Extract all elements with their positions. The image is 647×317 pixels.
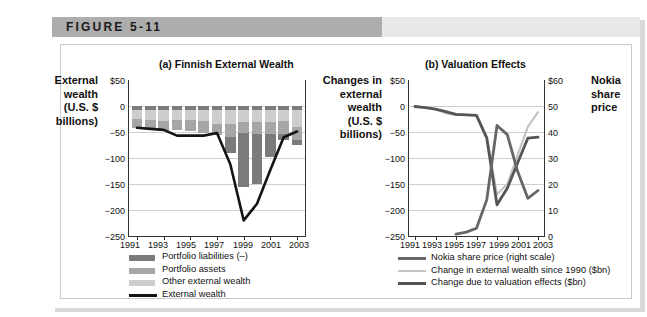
- legend-label: Change in external wealth since 1990 ($b…: [431, 265, 610, 275]
- panel-b-y2tick: 40: [548, 128, 572, 138]
- panel-b-ytick: 0: [381, 102, 405, 112]
- figure-page: FIGURE 5-11 (a) Finnish External Wealth …: [0, 0, 647, 317]
- panel-a-xtick: 2001: [257, 240, 285, 250]
- y-axis-label-line: Changes in: [308, 74, 382, 88]
- legend-line-external-wealth: [129, 294, 157, 297]
- title-bar-right: [382, 17, 640, 37]
- legend-label: Other external wealth: [162, 276, 250, 286]
- y-axis-label-line: (U.S. $: [308, 115, 382, 129]
- panel-b-series-lines: [409, 80, 544, 236]
- panel-a-title: (a) Finnish External Wealth: [159, 58, 294, 70]
- panel-a-y-axis-label: External wealth (U.S. $ billions): [32, 74, 98, 128]
- panel-a-xtick: 1995: [172, 240, 200, 250]
- legend-swatch-portfolio-assets: [129, 268, 155, 274]
- panel-b-xtick: 2003: [529, 240, 557, 250]
- legend-line-valuation-effects: [398, 282, 426, 285]
- series-line: [415, 107, 538, 205]
- panel-a-y-axis: [128, 80, 129, 237]
- panel-a-ytick: $50: [101, 76, 125, 86]
- y-axis-label-line: (U.S. $: [32, 101, 98, 115]
- legend-line-nokia-share-price: [398, 257, 426, 260]
- panel-b-ytick: −200: [370, 206, 405, 216]
- panel-b-y2tick: 10: [548, 206, 572, 216]
- y2-axis-label-line: price: [591, 101, 643, 115]
- panel-b-y2-axis: [544, 80, 545, 237]
- legend-item: Nokia share price (right scale): [398, 253, 638, 264]
- panel-b-legend: Nokia share price (right scale) Change i…: [398, 253, 638, 291]
- panel-a-ytick: −200: [90, 206, 125, 216]
- panel-b-y2tick: 20: [548, 180, 572, 190]
- figure-label: FIGURE 5-11: [66, 20, 162, 34]
- panel-a-xtick: 1997: [200, 240, 228, 250]
- panel-a-xtick: 1993: [144, 240, 172, 250]
- panel-b-y2tick: 50: [548, 102, 572, 112]
- panel-b-plot: [409, 80, 544, 236]
- panel-a-xtick: 1999: [229, 240, 257, 250]
- legend-item: Change due to valuation effects ($bn): [398, 278, 638, 289]
- legend-swatch-other-external-wealth: [129, 280, 155, 286]
- panel-b-ytick: −50: [374, 128, 405, 138]
- legend-swatch-portfolio-liabilities: [129, 255, 155, 261]
- legend-item: Portfolio assets: [129, 265, 329, 276]
- legend-item: External wealth: [129, 290, 329, 301]
- panel-b-ytick: −100: [370, 154, 405, 164]
- legend-line-change-external-wealth: [398, 270, 426, 272]
- external-wealth-line: [137, 128, 297, 221]
- y-axis-label-line: billions): [308, 128, 382, 142]
- panel-b-y2tick: $60: [548, 76, 572, 86]
- panel-b-y-axis: [408, 80, 409, 237]
- panel-a-ytick: −100: [90, 154, 125, 164]
- panel-b-y2tick: 30: [548, 154, 572, 164]
- legend-item: Change in external wealth since 1990 ($b…: [398, 266, 638, 277]
- panel-a-ytick: 0: [101, 102, 125, 112]
- y2-axis-label-line: Nokia: [591, 74, 643, 88]
- panel-a-legend: Portfolio liabilities (–) Portfolio asse…: [129, 252, 329, 302]
- figure-title-bar: FIGURE 5-11: [52, 17, 640, 37]
- panel-a-xtick: 2003: [285, 240, 313, 250]
- y-axis-label-line: wealth: [308, 101, 382, 115]
- panel-a-plot: [129, 80, 305, 236]
- y-axis-label-line: External: [32, 74, 98, 88]
- y-axis-label-line: wealth: [32, 88, 98, 102]
- panel-b-y2-axis-label: Nokia share price: [591, 74, 643, 115]
- panel-a-xtick: 1991: [116, 240, 144, 250]
- panel-a-external-wealth-line: [129, 80, 305, 236]
- panel-a-ytick: −150: [90, 180, 125, 190]
- y2-axis-label-line: share: [591, 88, 643, 102]
- legend-item: Portfolio liabilities (–): [129, 252, 329, 263]
- panel-a-right-axis: [305, 80, 306, 237]
- panel-a-ytick: −50: [94, 128, 125, 138]
- legend-label: Nokia share price (right scale): [431, 252, 555, 262]
- panel-b-title: (b) Valuation Effects: [425, 58, 526, 70]
- legend-label: Portfolio assets: [162, 264, 226, 274]
- legend-label: Portfolio liabilities (–): [162, 251, 248, 261]
- panel-b-y-axis-label: Changes in external wealth (U.S. $ billi…: [308, 74, 382, 142]
- y-axis-label-line: billions): [32, 115, 98, 129]
- series-line: [415, 107, 538, 195]
- legend-label: Change due to valuation effects ($bn): [431, 277, 586, 287]
- legend-item: Other external wealth: [129, 277, 329, 288]
- panel-b-ytick: −150: [370, 180, 405, 190]
- legend-label: External wealth: [162, 289, 226, 299]
- panel-b-ytick: $50: [381, 76, 405, 86]
- y-axis-label-line: external: [308, 88, 382, 102]
